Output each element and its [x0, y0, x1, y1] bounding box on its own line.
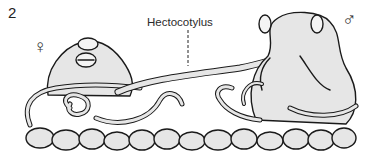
rocks-base [26, 128, 356, 150]
octopus-mating-illustration [0, 0, 378, 160]
